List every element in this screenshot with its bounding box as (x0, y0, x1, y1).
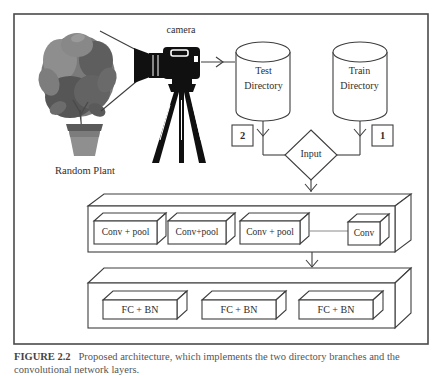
plant-image (35, 33, 120, 156)
camera-icon (134, 47, 206, 163)
figure-caption: FIGURE 2.2 Proposed architecture, which … (14, 350, 438, 376)
input-label: Input (284, 148, 338, 159)
flow-test-to-input (257, 121, 285, 155)
arrow-conv-to-fc (306, 252, 318, 267)
train-directory-label: Train Directory (332, 63, 387, 93)
fc-bn-label-1: FC + BN (103, 300, 177, 319)
fc-bn-label-3: FC + BN (299, 300, 373, 319)
conv-pool-label-1: Conv + pool (94, 221, 157, 244)
conv-label-4: Conv (348, 222, 380, 245)
figure-caption-number: FIGURE 2.2 (14, 351, 71, 362)
arrow-input-to-conv (305, 180, 317, 192)
figure-caption-text: Proposed architecture, which implements … (14, 351, 400, 375)
test-directory-label: Test Directory (236, 63, 291, 93)
conv-pool-label-3: Conv + pool (240, 221, 300, 244)
camera-label: camera (156, 24, 206, 35)
conv-pool-label-2: Conv+pool (168, 221, 226, 244)
fc-bn-label-2: FC + BN (202, 300, 276, 319)
random-plant-label: Random Plant (43, 165, 127, 176)
badge-test: 2 (232, 125, 253, 146)
badge-train: 1 (372, 125, 393, 146)
flow-train-to-input (337, 121, 366, 155)
